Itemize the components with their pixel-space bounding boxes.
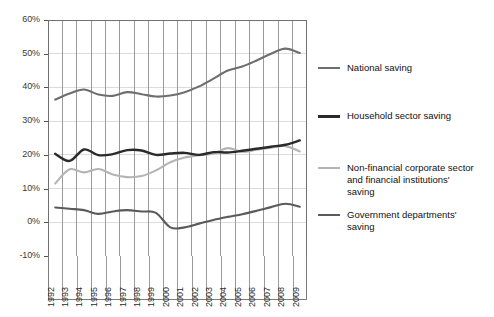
x-tick-label: 1996 bbox=[104, 287, 113, 307]
legend-item[interactable]: National saving bbox=[318, 62, 412, 74]
x-tick-label: 2009 bbox=[292, 287, 301, 307]
x-tick-label: 2004 bbox=[219, 287, 228, 307]
legend-swatch-line-icon bbox=[318, 167, 340, 169]
legend-swatch-line-icon bbox=[318, 67, 340, 69]
legend-item[interactable]: Government departments' saving bbox=[318, 209, 457, 233]
y-axis: 60%50%40%30%20%10%0%-10% bbox=[0, 0, 48, 317]
y-tick-label: 20% bbox=[22, 150, 40, 159]
x-tick-label: 2006 bbox=[248, 287, 257, 307]
y-tick-label: -10% bbox=[19, 251, 40, 260]
legend-swatch-line-icon bbox=[318, 214, 340, 216]
plot-canvas bbox=[48, 20, 307, 256]
x-axis: 1992199319941995199619971998199920002001… bbox=[48, 256, 307, 300]
x-tick-label: 2000 bbox=[162, 287, 171, 307]
x-tick-label: 1992 bbox=[47, 287, 56, 307]
x-tick-label: 2003 bbox=[205, 287, 214, 307]
plot-area bbox=[48, 20, 307, 256]
y-tick-label: 60% bbox=[22, 15, 40, 24]
x-tick-label: 2005 bbox=[234, 287, 243, 307]
legend-label: National saving bbox=[347, 62, 412, 74]
y-tick-label: 50% bbox=[22, 49, 40, 58]
y-tick-label: 10% bbox=[22, 184, 40, 193]
x-tick-label: 2008 bbox=[277, 287, 286, 307]
x-tick-label: 2001 bbox=[176, 287, 185, 307]
x-tick-label: 2002 bbox=[191, 287, 200, 307]
legend-label: Household sector saving bbox=[347, 110, 451, 122]
y-tick-label: 30% bbox=[22, 116, 40, 125]
legend-label: Non-financial corporate sector and finan… bbox=[347, 162, 474, 198]
savings-rate-line-chart: 60%50%40%30%20%10%0%-10% 199219931994199… bbox=[0, 0, 494, 317]
x-tick-label: 1999 bbox=[147, 287, 156, 307]
x-tick-label: 1993 bbox=[61, 287, 70, 307]
x-tick-label: 1994 bbox=[75, 287, 84, 307]
x-tick-label: 1995 bbox=[90, 287, 99, 307]
x-tick-label: 1998 bbox=[133, 287, 142, 307]
x-axis-column: 2009 bbox=[294, 256, 308, 300]
y-tick-label: 40% bbox=[22, 82, 40, 91]
legend-item[interactable]: Non-financial corporate sector and finan… bbox=[318, 162, 474, 198]
x-tick-label: 1997 bbox=[119, 287, 128, 307]
legend-swatch-line-icon bbox=[318, 115, 340, 118]
legend-item[interactable]: Household sector saving bbox=[318, 110, 451, 122]
legend-label: Government departments' saving bbox=[347, 209, 457, 233]
x-tick-label: 2007 bbox=[263, 287, 272, 307]
y-tick-label: 0% bbox=[27, 217, 40, 226]
